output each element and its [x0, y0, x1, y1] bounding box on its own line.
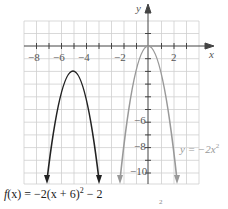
x-tick-label: −6: [53, 51, 65, 63]
x-tick-label: −2: [114, 51, 126, 63]
y-tick-label: −10: [130, 165, 147, 177]
equation-label-f: f(x) = −2(x + 6)2 − 2: [4, 186, 102, 202]
equation-g-text: y = −2x: [180, 143, 216, 155]
equation-label-g: y = −2x2: [180, 142, 219, 155]
x-tick-label: −4: [78, 51, 90, 63]
equation-f-tail: − 2: [84, 187, 103, 201]
equation-f-body: (x) = −2(x + 6): [7, 187, 79, 201]
coordinate-graph: [0, 0, 228, 209]
axes: [24, 4, 214, 184]
equation-g-exponent: 2: [216, 142, 220, 150]
x-tick-label: −8: [28, 51, 40, 63]
y-tick-label: −6: [134, 114, 146, 126]
x-axis-label: x: [209, 48, 214, 60]
curve-f: [44, 71, 102, 184]
y-tick-label: −8: [134, 140, 146, 152]
stray-mark: 2: [159, 198, 163, 206]
x-tick-label: 2: [171, 51, 177, 63]
y-axis-label: y: [136, 2, 141, 14]
